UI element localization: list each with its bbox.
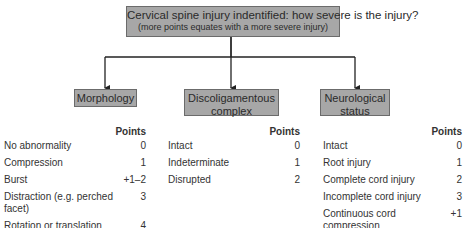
points-header: Points [4,126,146,137]
question-subtitle: (more points equates with a more severe … [127,22,339,32]
neurological-label: Neurological status [324,92,385,117]
table-row: Intact0 [323,140,462,152]
table-row: Distraction (e.g. perched facet)3 [4,191,146,215]
morphology-points-table: Points No abnormality0 Compression1 Burs… [4,126,146,228]
table-row: Rotation or translation (e.g. facet disl… [4,220,146,228]
table-row: Complete cord injury2 [323,174,462,186]
points-header: Points [323,126,462,137]
points-header: Points [168,126,300,137]
question-box: Cervical spine injury indentified: how s… [126,6,340,37]
neurological-points-table: Points Intact0 Root injury1 Complete cor… [323,126,462,228]
table-row: Indeterminate1 [168,157,300,169]
morphology-box: Morphology [74,89,137,107]
question-title: Cervical spine injury indentified: how s… [127,9,339,21]
morphology-label: Morphology [77,92,134,104]
table-row: Burst+1–2 [4,174,146,186]
table-row: Compression1 [4,157,146,169]
discoligamentous-label: Discoligamentous complex [188,92,275,117]
discoligamentous-box: Discoligamentous complex [184,89,279,116]
table-row: Incomplete cord injury3 [323,191,462,203]
table-row: Intact0 [168,140,300,152]
table-row: No abnormality0 [4,140,146,152]
table-row: Disrupted2 [168,174,300,186]
table-row: Root injury1 [323,157,462,169]
discoligamentous-points-table: Points Intact0 Indeterminate1 Disrupted2 [168,126,300,191]
neurological-box: Neurological status [320,89,390,116]
table-row: Continuous cord compression in the setti… [323,208,462,228]
